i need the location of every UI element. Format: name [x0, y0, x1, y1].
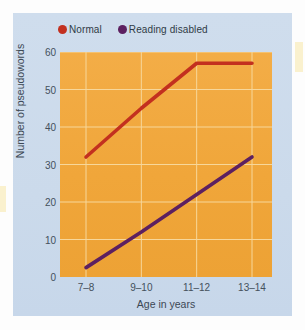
series-line-normal: [86, 63, 252, 157]
page-edge-artifact-right: [295, 42, 303, 72]
series-lines: [86, 63, 252, 267]
legend-label-reading-disabled: Reading disabled: [129, 24, 208, 35]
legend-label-normal: Normal: [69, 24, 102, 35]
x-tick-label: 13–14: [238, 282, 266, 293]
x-tick-label: 7–8: [78, 282, 95, 293]
legend-dot-reading-disabled-icon: [118, 25, 127, 34]
y-tick-label: 40: [22, 122, 56, 133]
y-tick-label: 50: [22, 84, 56, 95]
chart-legend: Normal Reading disabled: [58, 24, 208, 35]
plot-area: [60, 52, 272, 277]
x-tick-label: 9–10: [130, 282, 152, 293]
legend-item-normal: Normal: [58, 24, 102, 35]
x-tick-label: 11–12: [183, 282, 210, 293]
legend-dot-normal-icon: [58, 25, 67, 34]
y-tick-label: 0: [22, 272, 56, 283]
chart-figure: Normal Reading disabled 0102030405060 7–…: [0, 0, 305, 330]
x-axis-ticks: 7–89–1011–1213–14: [60, 282, 272, 296]
x-axis-label: Age in years: [60, 298, 272, 310]
y-tick-label: 20: [22, 197, 56, 208]
y-axis-label: Number of pseudowords: [14, 31, 26, 171]
y-tick-label: 60: [22, 47, 56, 58]
legend-item-reading-disabled: Reading disabled: [118, 24, 208, 35]
plot-svg: [60, 52, 272, 277]
y-tick-label: 30: [22, 159, 56, 170]
y-tick-label: 10: [22, 234, 56, 245]
series-line-reading-disabled: [86, 157, 252, 268]
page-edge-artifact-left: [0, 186, 6, 212]
